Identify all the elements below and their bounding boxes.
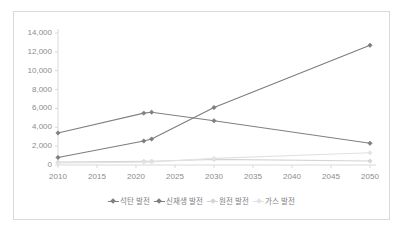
x-axis-tick-label: 2035 [236, 173, 270, 181]
y-axis-tick-label: 6,000 [18, 104, 52, 112]
y-axis-tick-label: 14,000 [18, 29, 52, 37]
data-point-marker [142, 111, 146, 115]
legend-marker-icon [108, 198, 119, 205]
x-axis-tick-label: 2050 [353, 173, 387, 181]
y-axis-tick-label: 8,000 [18, 86, 52, 94]
data-point-marker [368, 141, 372, 145]
x-axis-tick-label: 2030 [197, 173, 231, 181]
legend-label: 석탄 발전 [120, 197, 150, 206]
data-point-marker [368, 43, 372, 47]
legend-label: 가스 발전 [265, 197, 295, 206]
x-axis-tick-label: 2020 [119, 173, 153, 181]
data-point-marker [56, 155, 60, 159]
chart-legend: 석탄 발전신재생 발전원전 발전가스 발전 [14, 194, 389, 208]
data-point-marker [212, 118, 216, 122]
y-axis-tick-label: 2,000 [18, 142, 52, 150]
legend-item-3[interactable]: 원전 발전 [207, 197, 249, 206]
y-axis-tick-label: 10,000 [18, 67, 52, 75]
series-4 [56, 151, 372, 166]
data-point-marker [368, 151, 372, 155]
legend-marker-icon [154, 198, 165, 205]
x-axis-tick-label: 2010 [41, 173, 75, 181]
legend-marker-icon [207, 198, 218, 205]
y-axis-tick-label: 12,000 [18, 48, 52, 56]
legend-item-1[interactable]: 석탄 발전 [108, 197, 150, 206]
y-axis-tick-label: 4,000 [18, 123, 52, 131]
data-point-marker [212, 105, 216, 109]
y-axis-tick-label: 0 [18, 161, 52, 169]
x-axis-tick-label: 2040 [275, 173, 309, 181]
x-axis-tick-label: 2045 [314, 173, 348, 181]
x-axis-tick-label: 2025 [158, 173, 192, 181]
data-point-marker [142, 139, 146, 143]
legend-label: 신재생 발전 [166, 197, 203, 206]
legend-marker-icon [253, 198, 264, 205]
legend-item-4[interactable]: 가스 발전 [253, 197, 295, 206]
series-2 [56, 43, 372, 160]
legend-label: 원전 발전 [219, 197, 249, 206]
legend-item-2[interactable]: 신재생 발전 [154, 197, 203, 206]
data-point-marker [149, 110, 153, 114]
data-point-marker [368, 159, 372, 163]
data-point-marker [56, 131, 60, 135]
series-1 [56, 110, 372, 146]
data-point-marker [149, 137, 153, 141]
x-axis-tick-label: 2015 [80, 173, 114, 181]
